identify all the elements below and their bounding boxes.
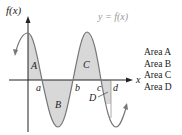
curve-label: y = f(x) <box>98 12 128 22</box>
y-axis-label: f(x) <box>6 4 21 16</box>
region-label-a: A <box>31 61 37 71</box>
area-item-d: Area D <box>144 82 172 94</box>
region-label-d: D <box>89 93 96 103</box>
region-label-b: B <box>55 100 61 110</box>
area-item-b: Area B <box>144 59 172 71</box>
area-item-a: Area A <box>144 47 172 59</box>
x-axis-label: x <box>136 75 140 85</box>
curve-left-arrow <box>13 49 18 56</box>
point-label-c: c <box>97 83 101 93</box>
region-a-fill <box>28 33 42 80</box>
area-list: Area A Area B Area C Area D <box>144 47 172 93</box>
region-d-fill <box>101 80 111 104</box>
region-label-c: C <box>83 60 90 70</box>
area-item-c: Area C <box>144 70 172 82</box>
point-label-a: a <box>36 83 41 93</box>
point-label-b: b <box>75 83 80 93</box>
y-axis-arrow <box>26 16 31 23</box>
x-axis-arrow <box>126 78 133 83</box>
point-label-d: d <box>113 83 118 93</box>
curve-right-arrow <box>123 103 128 110</box>
